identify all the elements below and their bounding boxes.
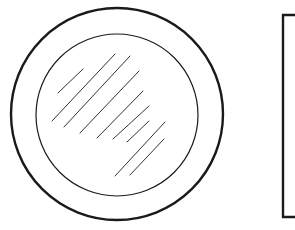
hatch-line (113, 106, 149, 139)
hatch-line (52, 54, 115, 121)
hatch-line (97, 91, 143, 138)
hatch-line (127, 121, 149, 142)
inner-lens-circle (36, 34, 198, 196)
hatch-line (58, 69, 83, 93)
rectangular-frame (283, 15, 295, 217)
glass-reflection-hatching (52, 54, 165, 176)
lens-diagram (0, 0, 295, 230)
hatch-line (130, 139, 164, 175)
outer-rim-circle (11, 8, 223, 220)
